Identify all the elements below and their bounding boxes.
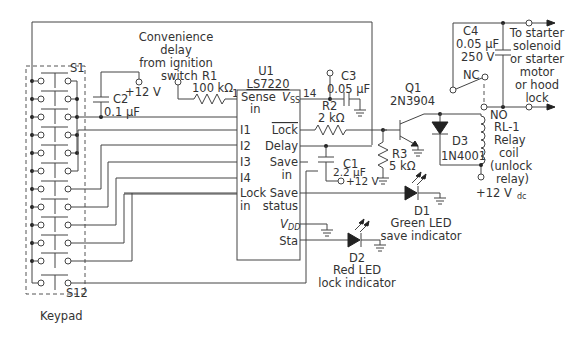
c1-supply: +12 V [346,175,379,187]
u1-part: LS7220 [247,77,290,91]
pin-vss-sub: SS [290,96,300,105]
r3-value: 5 kΩ [389,159,416,173]
d3-ref: D3 [452,134,468,148]
output-line-2: solenoid [513,39,561,53]
q1-ref: Q1 [405,81,421,95]
d2-ground-icon [374,245,386,251]
pin-lock-in: Lock [240,186,267,200]
pin-sense-in: in [250,102,260,116]
output-line-6: lock [525,91,549,105]
q1-ground-icon [412,150,424,156]
pin-i2: I2 [240,139,251,153]
output-line-1: To starter [509,26,565,40]
c4-rating: 250 V [461,50,495,64]
output-line-5: or hood [515,78,559,92]
pin-save-status: Save [270,186,298,200]
pin-sta: Sta [279,234,298,248]
circuit-schematic: S1 S12 Keypad C2 +12 V 0.1 μF Convenienc… [0,0,578,339]
r1-value: 100 kΩ [192,81,233,95]
pin-i1: I1 [240,123,251,137]
switch-s2 [30,91,79,106]
vdd-ground-icon [321,230,333,236]
switch-s3 [30,109,79,124]
note-line-3: from ignition [139,56,212,70]
relay-coil [478,84,485,180]
note-line-1: Convenience [139,30,213,44]
output-note: To starter solenoid or starter motor or … [509,26,565,105]
relay-ref: RL-1 [494,120,520,134]
c2-supply-label: +12 V [125,85,161,99]
vdd-wire [300,224,327,230]
r2-resistor [300,125,387,135]
c3-ground-icon [354,110,366,116]
u1-ic: U1 LS7220 Sense in I1 I2 I3 I4 Lock in V… [237,64,300,260]
switch-s1 [30,73,77,153]
d2-desc1: Red LED [333,263,381,277]
ignition-terminal [175,79,181,85]
switch-s10 [30,194,240,250]
c3-value: 0.05 μF [327,82,370,96]
switch-s8 [30,162,240,214]
pin-lock-in-2: in [240,199,250,213]
d1-desc2: save indicator [380,229,461,243]
nc-terminal [482,74,488,80]
d1-desc1: Green LED [390,216,451,230]
pin-delay: Delay [265,139,298,153]
switch-s1-label: S1 [70,61,85,75]
pin-save-in-2: in [282,168,292,182]
relay-supply-label: +12 V [476,186,512,200]
switch-s9 [30,178,240,232]
pin-save-in: Save [270,155,298,169]
d2-desc2: lock indicator [318,276,396,290]
switch-s6 [30,130,240,178]
q1-part: 2N3904 [390,94,435,108]
pin-lock: Lock [272,123,299,137]
pin-i4: I4 [240,171,251,185]
pin-save-status-2: status [263,199,298,213]
pin-i3: I3 [240,155,251,169]
u1-ref: U1 [258,64,274,78]
d1-ground-icon [434,198,446,204]
output-line-4: motor [520,65,555,79]
switch-s4 [30,127,79,142]
output-line-3: or starter [510,52,564,66]
pin-vdd-sub: DD [288,223,300,232]
relay-line2: coil [499,146,519,160]
c3-ref: C3 [341,69,356,83]
c4-value: 0.05 μF [456,37,499,51]
note-line-2: delay [160,43,192,57]
no-terminal [481,104,487,110]
switch-s11 [30,193,132,268]
r3-ground-icon [377,178,389,184]
c4-ref: C4 [463,24,478,38]
switch-s12-label: S12 [66,286,88,300]
relay-line4: relay) [496,172,529,186]
switch-s7 [30,145,240,196]
switch-s5 [30,145,79,160]
relay-supply-terminal [478,174,484,180]
r2-value: 2 kΩ [318,111,345,125]
c2-value: 0.1 μF [104,105,140,119]
keypad-label: Keypad [40,309,83,323]
relay-line3: (unlock [490,159,533,173]
u1-pin14: 14 [303,87,317,99]
relay-line1: Relay [494,133,526,147]
r3-resistor [377,130,389,184]
d3-part: 1N4001 [441,149,486,163]
relay-nc-label: NC [463,68,480,82]
relay-supply-sub: dc [517,192,526,201]
